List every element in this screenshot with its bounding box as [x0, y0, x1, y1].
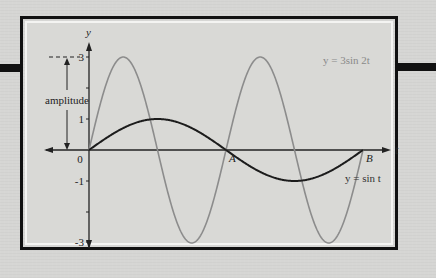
y-tick-label-3: 3 — [79, 51, 85, 63]
y-axis-up-arrow-icon — [86, 42, 92, 51]
t-axis-right-arrow-icon — [382, 147, 391, 153]
point-a-label: A — [228, 152, 236, 164]
point-b-label: B — [366, 152, 373, 164]
y-tick-label-neg1: -1 — [75, 175, 84, 187]
y-tick-label-neg3: -3 — [75, 236, 85, 248]
amplitude-label: amplitude — [45, 94, 89, 106]
curve-3sin2t-label: y = 3sin 2t — [323, 54, 370, 66]
origin-label: 0 — [77, 153, 83, 165]
y-axis-label: y — [85, 26, 91, 38]
amplitude-down-arrow-icon — [64, 143, 70, 150]
t-axis-label: t — [395, 143, 399, 157]
amplitude-up-arrow-icon — [64, 58, 70, 65]
y-axis-down-arrow-icon — [86, 240, 92, 249]
curve-sint-label: y = sin t — [345, 172, 381, 184]
y-tick-label-1: 1 — [79, 113, 85, 125]
sine-graph: y t 0 3 1 -1 -3 amplitude A B y = 3sin 2… — [0, 0, 436, 278]
t-axis-left-arrow-icon — [44, 147, 53, 153]
